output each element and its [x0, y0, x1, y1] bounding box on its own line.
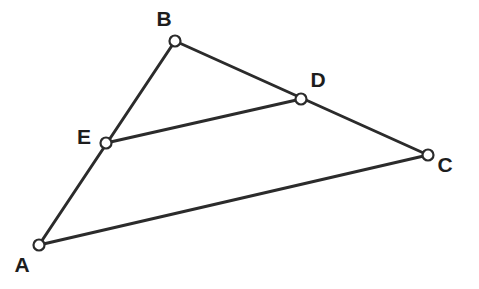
- vertex-label-c: C: [437, 153, 452, 176]
- geometry-canvas: ABCDE: [0, 0, 479, 289]
- geometry-diagram: ABCDE: [0, 0, 479, 289]
- vertex-label-d: D: [310, 68, 325, 91]
- vertex-point-c[interactable]: [423, 150, 434, 161]
- vertex-point-d[interactable]: [296, 94, 307, 105]
- segment-ED: [106, 99, 301, 143]
- vertex-label-e: E: [77, 125, 91, 148]
- vertex-point-a[interactable]: [34, 240, 45, 251]
- vertex-label-b: B: [156, 7, 171, 30]
- vertex-point-e[interactable]: [101, 138, 112, 149]
- segment-AC: [39, 155, 428, 245]
- vertex-point-b[interactable]: [170, 36, 181, 47]
- segments-group: [39, 41, 428, 245]
- vertex-label-a: A: [14, 253, 29, 276]
